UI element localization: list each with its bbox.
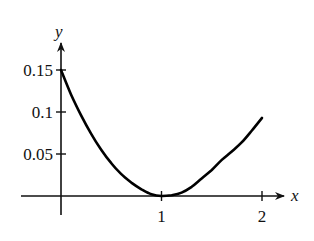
data-curve (61, 70, 262, 196)
y-axis-label: y (53, 22, 63, 41)
axes (21, 43, 284, 215)
y-ticks: 0.050.10.15 (23, 61, 66, 164)
x-axis-label: x (290, 186, 299, 205)
y-tick-label: 0.05 (23, 145, 53, 164)
y-tick-label: 0.1 (32, 103, 53, 122)
x-tick-label: 2 (258, 207, 267, 226)
chart: 12 0.050.10.15 y x (0, 0, 314, 241)
y-tick-label: 0.15 (23, 61, 53, 80)
x-tick-label: 1 (157, 207, 166, 226)
